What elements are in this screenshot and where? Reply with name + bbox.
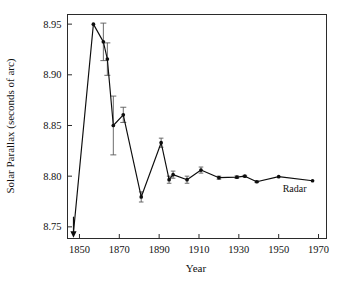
y-tick-labels: 8.758.808.858.908.95	[43, 19, 61, 233]
data-point	[121, 113, 125, 117]
data-point	[185, 178, 189, 182]
series-line	[73, 24, 312, 232]
y-tick-label: 8.85	[43, 120, 61, 131]
x-tick-labels: 1850187018901910193019501970	[69, 244, 329, 255]
chart-annotations: Radar	[283, 183, 308, 194]
x-tick-label: 1930	[228, 244, 249, 255]
x-tick-label: 1950	[268, 244, 289, 255]
solar-parallax-chart: 1850187018901910193019501970 8.758.808.8…	[0, 0, 341, 290]
x-tick-label: 1890	[149, 244, 170, 255]
x-tick-label: 1970	[308, 244, 329, 255]
data-point	[277, 175, 281, 179]
data-line	[73, 24, 312, 232]
y-tick-label: 8.80	[43, 171, 61, 182]
x-tick-label: 1910	[188, 244, 209, 255]
data-point	[235, 175, 239, 179]
x-axis-title: Year	[186, 262, 207, 274]
data-point	[199, 168, 203, 172]
data-point	[255, 180, 259, 184]
y-tick-label: 8.90	[43, 69, 61, 80]
data-point	[105, 57, 109, 61]
plot-frame	[68, 15, 327, 239]
arrow-head	[70, 231, 76, 237]
chart-svg: 1850187018901910193019501970 8.758.808.8…	[0, 0, 341, 290]
y-axis-title: Solar Parallax (seconds of arc)	[4, 58, 17, 193]
x-axis-ticks	[79, 234, 318, 239]
data-point	[159, 141, 163, 145]
data-point	[102, 40, 106, 44]
error-bars	[100, 23, 259, 202]
data-point	[243, 174, 247, 178]
annotation-radar-label: Radar	[283, 183, 308, 194]
data-point	[311, 179, 315, 183]
y-tick-label: 8.75	[43, 221, 61, 232]
y-tick-label: 8.95	[43, 19, 61, 30]
data-point-markers	[92, 22, 315, 199]
data-point	[217, 176, 221, 180]
data-point	[139, 195, 143, 199]
x-tick-label: 1870	[109, 244, 130, 255]
data-point	[167, 178, 171, 182]
data-point	[92, 22, 96, 26]
data-point	[111, 124, 115, 128]
data-point	[171, 173, 175, 177]
x-tick-label: 1850	[69, 244, 90, 255]
y-axis-ticks	[68, 24, 73, 227]
